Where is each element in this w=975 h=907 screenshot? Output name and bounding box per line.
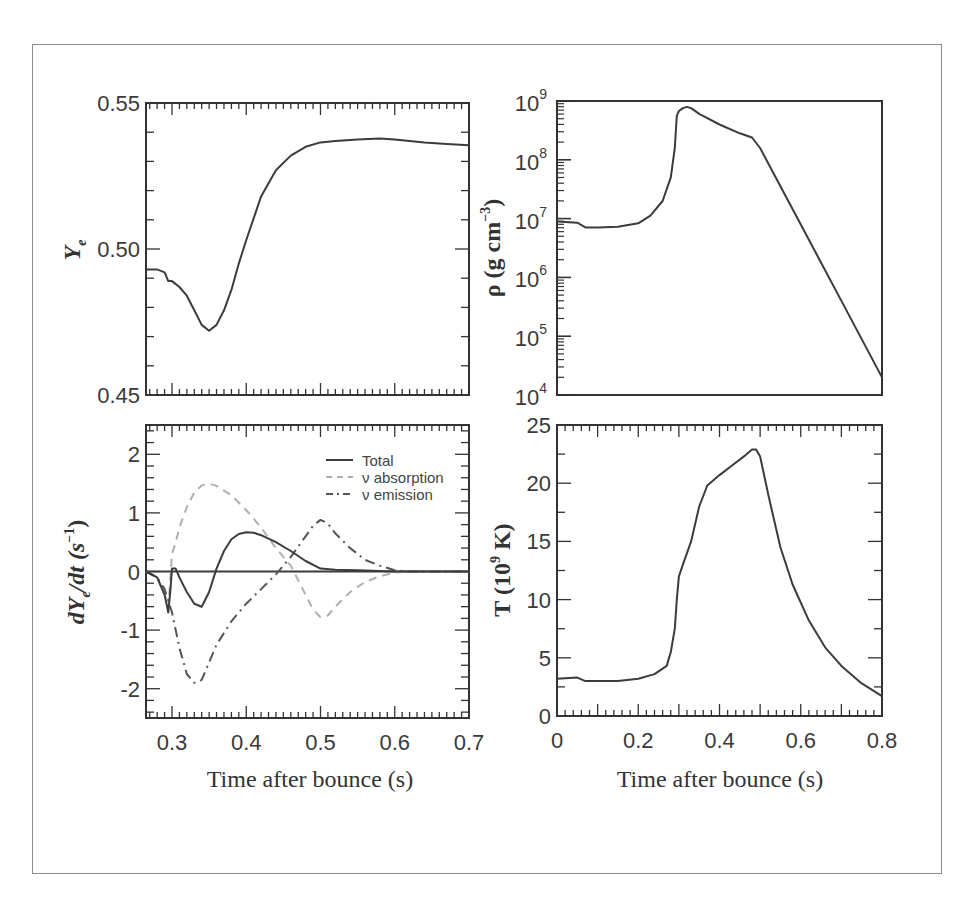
x-tick-label: 0.4 (704, 728, 735, 753)
panel-density: 104105106107108109 (515, 86, 882, 410)
x-tick-label: 0.7 (454, 730, 485, 755)
y-tick-label: 15 (527, 529, 551, 554)
legend-label-absorption: ν absorption (362, 469, 444, 486)
y-tick-label: 0.50 (97, 237, 140, 262)
y-tick-label: 108 (515, 145, 547, 175)
y-tick-label: 10 (527, 588, 551, 613)
x-tick-label: 0.3 (157, 730, 188, 755)
x-tick-label: 0.6 (379, 730, 410, 755)
y-tick-label: 1 (128, 501, 140, 526)
x-tick-label: 0.2 (623, 728, 654, 753)
panel-ye: 0.450.500.55 (97, 91, 469, 408)
y-tick-label: 0 (128, 560, 140, 585)
xlabel-right: Time after bounce (s) (617, 766, 823, 792)
ye-ylabel: Ye (59, 240, 89, 261)
legend-label-emission: ν emission (362, 486, 433, 503)
y-tick-label: 25 (527, 413, 551, 438)
y-tick-label: 0.55 (97, 91, 140, 116)
y-tick-label: 105 (515, 321, 547, 351)
figure-canvas: 0.450.500.55 104105106107108109 0.30.40.… (0, 0, 975, 907)
y-tick-label: 0 (539, 704, 551, 729)
panel-temperature: 00.20.40.60.80510152025 (527, 413, 898, 753)
legend-label-total: Total (362, 452, 394, 469)
y-tick-label: -2 (120, 677, 140, 702)
x-tick-label: 0.4 (231, 730, 262, 755)
emission-curve (146, 520, 469, 683)
rho-ylabel: ρ (g cm−3) (478, 199, 505, 297)
y-tick-label: 109 (515, 86, 547, 116)
x-tick-label: 0.6 (785, 728, 816, 753)
y-tick-label: 106 (515, 262, 547, 292)
temperature-curve (557, 449, 882, 696)
y-tick-label: 20 (527, 471, 551, 496)
plot-area (557, 101, 882, 395)
y-tick-label: 107 (515, 204, 547, 234)
dyedt-ylabel: dYe/dt (s−1) (62, 520, 93, 625)
x-tick-label: 0 (551, 728, 563, 753)
y-tick-label: 5 (539, 646, 551, 671)
y-tick-label: 104 (515, 380, 547, 410)
x-tick-label: 0.5 (305, 730, 336, 755)
y-tick-label: 2 (128, 442, 140, 467)
legend: Total ν absorption ν emission (326, 452, 444, 503)
absorption-curve (146, 484, 469, 618)
xlabel-left: Time after bounce (s) (207, 766, 413, 792)
x-tick-label: 0.8 (867, 728, 898, 753)
density-curve (557, 107, 882, 378)
y-tick-label: 0.45 (97, 383, 140, 408)
plot-area (557, 425, 882, 716)
t-ylabel: T (109 K) (488, 523, 515, 616)
ye-curve (146, 139, 469, 331)
y-tick-label: -1 (120, 618, 140, 643)
